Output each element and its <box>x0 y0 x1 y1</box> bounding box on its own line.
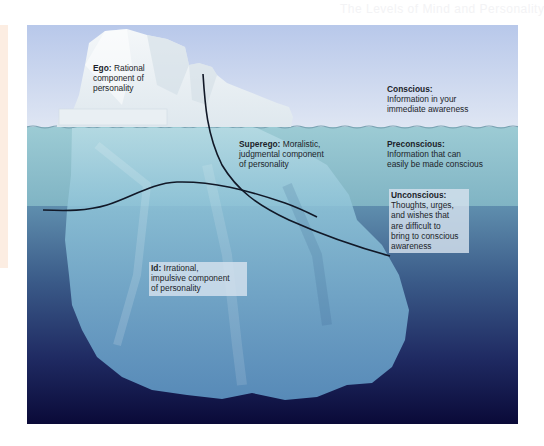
ego-line-3: personality <box>93 83 173 93</box>
id-line-1: Irrational, <box>164 263 199 273</box>
superego-line-3: of personality <box>239 159 369 169</box>
id-line-3: of personality <box>151 283 245 293</box>
unconscious-line-2: and wishes that <box>391 210 467 220</box>
side-accent-strip <box>0 25 8 268</box>
id-label: Id: Irrational, impulsive component of p… <box>149 262 247 296</box>
preconscious-label: Preconscious: Information that can easil… <box>387 139 517 170</box>
unconscious-line-3: are difficult to <box>391 221 467 231</box>
ego-title: Ego: <box>93 63 114 73</box>
faint-page-header: The Levels of Mind and Personality <box>340 2 540 16</box>
superego-label: Superego: Moralistic, judgmental compone… <box>239 139 369 170</box>
ego-line-1: Rational <box>114 63 145 73</box>
superego-line-1: Moralistic, <box>283 139 321 149</box>
ego-label: Ego: Rational component of personality <box>93 63 173 94</box>
id-line-2: impulsive component <box>151 273 245 283</box>
conscious-line-2: immediate awareness <box>387 104 512 114</box>
preconscious-line-1: Information that can <box>387 149 517 159</box>
conscious-label: Conscious: Information in your immediate… <box>387 84 512 115</box>
superego-title: Superego: <box>239 139 283 149</box>
preconscious-line-2: easily be made conscious <box>387 159 517 169</box>
ego-line-2: component of <box>93 73 173 83</box>
unconscious-title: Unconscious: <box>391 190 467 200</box>
unconscious-line-4: bring to conscious <box>391 231 467 241</box>
id-title: Id: <box>151 263 164 273</box>
conscious-line-1: Information in your <box>387 94 512 104</box>
unconscious-line-5: awareness <box>391 241 467 251</box>
unconscious-label: Unconscious: Thoughts, urges, and wishes… <box>389 189 469 253</box>
conscious-title: Conscious: <box>387 84 512 94</box>
superego-line-2: judgmental component <box>239 149 369 159</box>
iceberg-diagram: Ego: Rational component of personality C… <box>27 25 518 424</box>
unconscious-line-1: Thoughts, urges, <box>391 200 467 210</box>
preconscious-title: Preconscious: <box>387 139 517 149</box>
